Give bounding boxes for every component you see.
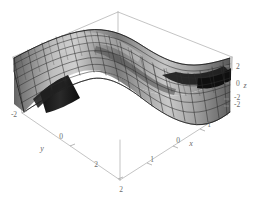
z-axis-tick-labels: 2 0 -2 -2	[234, 62, 240, 109]
plot-canvas: -2 0 2 -1 0 1 2 2 0 -2 -2 y x z	[0, 0, 253, 202]
z-axis-label: z	[242, 81, 247, 90]
x-tick-label: 1	[150, 155, 154, 164]
surface-plot-figure: -2 0 2 -1 0 1 2 2 0 -2 -2 y x z	[0, 0, 253, 202]
x-axis-tick-labels: -1 0 1 2	[119, 120, 211, 194]
y-tick-label: 0	[59, 132, 63, 141]
y-tick-label: -2	[11, 110, 17, 119]
y-tick-label: 2	[94, 160, 98, 169]
y-axis-label: y	[39, 144, 44, 153]
x-tick-label: -1	[205, 120, 211, 129]
x-tick-label: 2	[119, 185, 123, 194]
y-axis-tick-labels: -2 0 2	[11, 110, 98, 169]
z-tick-label: 0	[236, 79, 240, 88]
z-tick-label: 2	[236, 62, 240, 71]
x-tick-label: 0	[176, 136, 180, 145]
z-tick-label: -2	[234, 100, 240, 109]
x-axis-label: x	[188, 139, 193, 148]
